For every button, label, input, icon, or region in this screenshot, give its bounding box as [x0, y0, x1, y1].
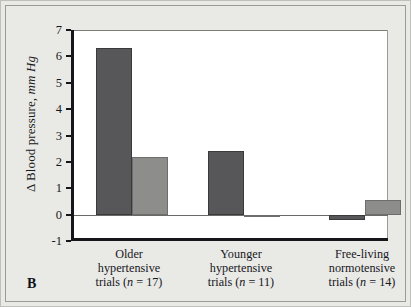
- y-tick-label: 7: [11, 23, 71, 38]
- x-axis-label-line: Younger: [182, 247, 300, 261]
- x-axis-label-line: hypertensive: [70, 261, 188, 275]
- panel-letter: B: [27, 276, 36, 292]
- y-tick-mark: [66, 161, 71, 163]
- x-axis-label-group-2: Youngerhypertensivetrials (n = 11): [182, 247, 300, 290]
- bar-light-group-2: [244, 215, 280, 218]
- x-axis-label-line: trials (n = 17): [70, 275, 188, 289]
- y-axis-title: Δ Blood pressure, mm Hg: [23, 14, 39, 234]
- sample-size-n: n: [360, 275, 366, 289]
- y-tick-mark: [66, 240, 71, 242]
- sample-size-n: n: [127, 275, 133, 289]
- y-tick-mark: [66, 82, 71, 84]
- x-axis-label-line: Free-living: [303, 247, 411, 261]
- bar-light-group-1: [132, 157, 168, 215]
- x-axis-label-line: trials (n = 14): [303, 275, 411, 289]
- y-tick-mark: [66, 187, 71, 189]
- y-tick-mark: [66, 29, 71, 31]
- bar-dark-group-2: [208, 151, 244, 214]
- x-axis-label-line: Older: [70, 247, 188, 261]
- bar-dark-group-1: [96, 48, 132, 214]
- y-tick-mark: [66, 214, 71, 216]
- y-tick-label: 4: [11, 102, 71, 117]
- y-tick-label: 1: [11, 181, 71, 196]
- y-tick-label: -1: [11, 234, 71, 249]
- figure-panel: Δ Blood pressure, mm Hg 76543210-1 Older…: [0, 0, 411, 307]
- y-tick-mark: [66, 135, 71, 137]
- plot-top-rule: [74, 30, 388, 31]
- x-axis-label-line: hypertensive: [182, 261, 300, 275]
- y-tick-mark: [66, 108, 71, 110]
- y-tick-label: 5: [11, 75, 71, 90]
- y-tick-label: 2: [11, 154, 71, 169]
- sample-size-n: n: [239, 275, 245, 289]
- plot-wrapper: 76543210-1: [71, 30, 388, 241]
- x-axis-label-line: normotensive: [303, 261, 411, 275]
- x-axis-label-group-1: Olderhypertensivetrials (n = 17): [70, 247, 188, 290]
- x-axis-label-group-3: Free-livingnormotensivetrials (n = 14): [303, 247, 411, 290]
- bar-light-group-3: [365, 200, 401, 215]
- y-tick-label: 3: [11, 128, 71, 143]
- y-tick-mark: [66, 55, 71, 57]
- bar-dark-group-3: [329, 215, 365, 220]
- y-tick-label: 6: [11, 49, 71, 64]
- plot-area: [71, 30, 388, 241]
- x-axis-label-line: trials (n = 11): [182, 275, 300, 289]
- y-tick-label: 0: [11, 207, 71, 222]
